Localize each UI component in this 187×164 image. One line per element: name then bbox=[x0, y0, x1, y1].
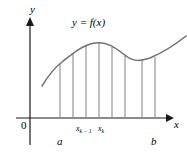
y-axis-label: y bbox=[30, 4, 35, 15]
origin-label: 0 bbox=[21, 120, 27, 131]
partition-label-subscript: k − 1 bbox=[80, 128, 92, 134]
partition-label-subscript: k bbox=[102, 128, 105, 134]
interval-right-label: b bbox=[151, 136, 157, 147]
interval-left-label: a bbox=[57, 136, 63, 147]
x-axis-label: x bbox=[174, 119, 179, 130]
y-axis-arrowhead bbox=[26, 17, 34, 26]
partition-label-x-k: xk bbox=[98, 125, 104, 134]
partition-ordinates bbox=[60, 43, 155, 118]
curve-equation-label: y = f(x) bbox=[72, 17, 105, 28]
y-axis bbox=[26, 17, 34, 145]
riemann-sum-figure: y x 0 a b y = f(x) xk − 1 xk bbox=[0, 0, 187, 164]
x-axis bbox=[16, 114, 174, 122]
function-curve bbox=[42, 36, 186, 86]
x-axis-arrowhead bbox=[166, 114, 174, 122]
partition-label-x-k-minus-1: xk − 1 bbox=[76, 125, 92, 134]
